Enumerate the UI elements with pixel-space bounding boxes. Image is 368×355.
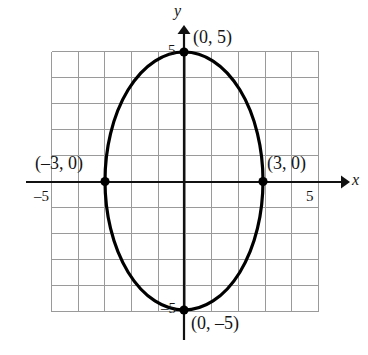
- coordinate-plane-svg: [0, 0, 368, 355]
- y-tick-label-pos5: 5: [168, 43, 176, 58]
- x-axis-arrowhead: [341, 176, 350, 189]
- point-top-vertex: [179, 47, 188, 56]
- left-vertex-label: (–3, 0): [35, 154, 83, 172]
- x-tick-label-pos5: 5: [306, 189, 314, 204]
- point-right-vertex: [258, 177, 267, 186]
- y-axis-arrowhead: [178, 25, 191, 34]
- x-axis-label: x: [352, 172, 359, 188]
- bottom-vertex-label: (0, –5): [191, 314, 239, 332]
- point-left-vertex: [100, 177, 109, 186]
- x-tick-label-neg5: –5: [34, 189, 49, 204]
- y-axis-label: y: [174, 3, 181, 19]
- graph-figure: x y –5 5 5 –5 (0, 5) (3, 0) (–3, 0) (0, …: [0, 0, 368, 355]
- top-vertex-label: (0, 5): [193, 28, 232, 46]
- axis-lines: [26, 32, 343, 340]
- right-vertex-label: (3, 0): [267, 154, 306, 172]
- y-tick-label-neg5: –5: [161, 301, 176, 316]
- point-bottom-vertex: [179, 305, 188, 314]
